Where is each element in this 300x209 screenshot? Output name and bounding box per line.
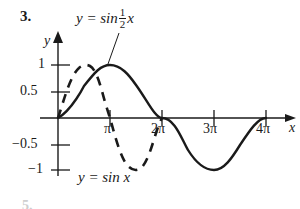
y-axis-label: y [44,33,50,49]
x-tick-label-2pi: 2π [151,121,165,137]
figure-container: 3. y x 1 0.5 −0.5 −1 π 2π 3π 4π y [0,0,300,209]
annotation-leader-line [108,33,119,64]
fraction-one-half: 12 [119,7,127,30]
y-tick-label-1: 1 [38,56,45,72]
curve-label-sin-half-x-suffix: x [127,10,134,26]
x-tick-label-3pi: 3π [203,121,217,137]
y-axis-arrowhead [53,31,63,43]
x-tick-label-4pi: 4π [256,121,270,137]
x-axis-label: x [289,120,295,136]
x-tick-label-pi: π [104,121,111,137]
curve-label-sin-x: y = sin x [78,169,130,186]
next-problem-number: 5. [22,198,33,209]
y-tick-label-neg-1: −1 [28,161,43,177]
fraction-denominator: 2 [119,19,127,30]
curve-label-sin-half-x-prefix: y = sin [76,10,118,26]
graph-svg [0,0,300,209]
y-tick-label-0.5: 0.5 [20,83,38,99]
y-tick-label-neg-0.5: −0.5 [12,136,37,152]
curve-label-sin-half-x: y = sin12x [76,8,134,31]
